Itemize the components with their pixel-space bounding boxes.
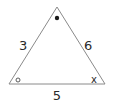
side-bottom-label: 5 <box>53 88 61 103</box>
side-right-label: 6 <box>84 38 92 53</box>
hollow-circle-icon <box>16 78 20 82</box>
triangle-svg: 3 6 5 x <box>0 0 117 104</box>
filled-dot-icon <box>55 16 59 20</box>
triangle-diagram: 3 6 5 x <box>0 0 117 104</box>
angle-x-label: x <box>91 74 97 85</box>
side-left-label: 3 <box>19 38 27 53</box>
